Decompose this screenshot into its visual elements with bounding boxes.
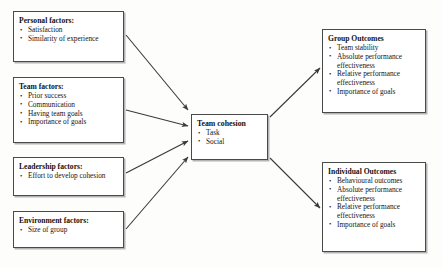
box-title: Team cohesion [197,119,264,128]
list-item: Absolute performance effectiveness [328,53,422,70]
box-team-factors[interactable]: Team factors: Prior success Communicatio… [13,77,124,143]
list-item: Importance of goals [19,118,120,127]
diagram-canvas: Personal factors: Satisfaction Similarit… [0,0,442,268]
box-leadership-factors[interactable]: Leadership factors: Effort to develop co… [13,157,124,196]
box-team-cohesion[interactable]: Team cohesion Task Social [191,114,268,160]
bullet-list: Behavioural outcomes Absolute performanc… [328,177,422,229]
box-title: Personal factors: [19,16,120,25]
bullet-list: Task Social [197,129,264,146]
box-environment-factors[interactable]: Environment factors: Size of group [13,211,124,248]
list-item: Relative performance effectiveness [328,70,422,87]
bullet-list: Team stability Absolute performance effe… [328,44,422,96]
arrow-environment-to-cohesion [126,157,188,229]
bullet-list: Size of group [19,226,120,235]
arrow-cohesion-to-group [270,68,320,117]
box-personal-factors[interactable]: Personal factors: Satisfaction Similarit… [13,11,124,62]
list-item: Similarity of experience [19,35,120,44]
bullet-list: Prior success Communication Having team … [19,92,120,127]
box-title: Individual Outcomes [328,167,422,176]
arrow-cohesion-to-individual [270,158,320,208]
list-item: Importance of goals [328,88,422,97]
bullet-list: Satisfaction Similarity of experience [19,26,120,43]
list-item: Social [197,138,264,147]
box-individual-outcomes[interactable]: Individual Outcomes Behavioural outcomes… [322,162,426,252]
box-title: Group Outcomes [328,34,422,43]
list-item: Effort to develop cohesion [19,172,120,181]
list-item: Relative performance effectiveness [328,203,422,220]
arrow-team-to-cohesion [126,110,188,126]
arrow-personal-to-cohesion [126,35,188,110]
list-item: Size of group [19,226,120,235]
arrow-leadership-to-cohesion [126,141,188,173]
bullet-list: Effort to develop cohesion [19,172,120,181]
box-title: Environment factors: [19,216,120,225]
box-title: Team factors: [19,82,120,91]
list-item: Importance of goals [328,221,422,230]
list-item: Absolute performance effectiveness [328,186,422,203]
box-group-outcomes[interactable]: Group Outcomes Team stability Absolute p… [322,29,426,113]
box-title: Leadership factors: [19,162,120,171]
